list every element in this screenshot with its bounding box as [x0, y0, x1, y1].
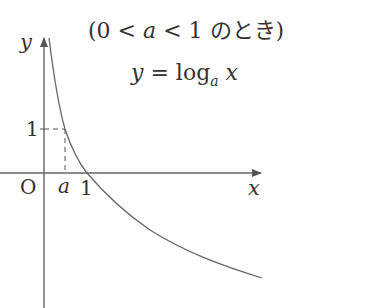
equation-label: y = loga x [131, 62, 238, 84]
x-axis-label: x [248, 178, 260, 199]
x-tick-label-a: a [58, 176, 70, 196]
y-tick-label-one: 1 [26, 119, 39, 139]
title-a: a [143, 18, 156, 43]
title-lt-2: < [156, 18, 188, 43]
title-lt-1: < [111, 18, 143, 43]
y-axis-label: y [20, 32, 32, 53]
equation-x: x [219, 60, 238, 85]
title-jp-text: のとき [203, 18, 276, 43]
title-zero: 0 [97, 18, 111, 43]
log-graph-diagram: (0 < a < 1 のとき) y = loga x y x O 1 a 1 [0, 0, 388, 308]
origin-label: O [20, 177, 36, 197]
x-tick-label-one: 1 [80, 178, 93, 198]
graph-canvas [0, 0, 388, 308]
equation-log: = log [143, 60, 210, 85]
condition-title: (0 < a < 1 のとき) [88, 20, 284, 42]
paren-open: ( [88, 18, 97, 43]
equation-y: y [131, 60, 143, 85]
title-one: 1 [189, 18, 203, 43]
paren-close: ) [276, 18, 285, 43]
equation-base: a [210, 73, 218, 89]
